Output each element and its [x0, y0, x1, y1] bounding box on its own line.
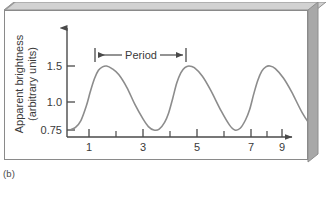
x-axis-ticks-major: [89, 129, 282, 137]
y-tick-label-1-0: 1.0: [47, 96, 62, 108]
x-tick-label-3: 3: [140, 141, 146, 153]
x-tick-label-7: 7: [248, 141, 254, 153]
y-axis-ticks: [67, 66, 75, 130]
x-tick-label-9: 9: [279, 141, 285, 153]
figure-b-light-curve: 1.5 1.0 0.75 1 3 5 7 9 Period: [0, 0, 332, 198]
x-tick-label-5: 5: [194, 141, 200, 153]
y-axis-title: Apparent brightness (arbitrary units): [13, 34, 38, 133]
figure-caption: (b): [3, 168, 15, 179]
light-curve-line: [71, 66, 308, 130]
y-tick-label-1-5: 1.5: [47, 60, 62, 72]
plot-area: 1.5 1.0 0.75 1 3 5 7 9 Period: [4, 10, 308, 160]
y-axis-title-line2: (arbitrary units): [26, 47, 38, 121]
y-axis-title-line1: Apparent brightness: [13, 34, 25, 133]
y-tick-label-0-75: 0.75: [41, 124, 62, 136]
period-annotation: Period: [95, 48, 186, 62]
figure-frame: 1.5 1.0 0.75 1 3 5 7 9 Period: [4, 2, 326, 162]
x-axis-ticks-minor: [116, 131, 267, 137]
period-label: Period: [125, 49, 157, 61]
x-tick-label-1: 1: [86, 141, 92, 153]
